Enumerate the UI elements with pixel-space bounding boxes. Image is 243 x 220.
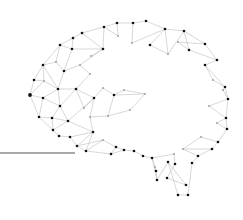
network-node <box>102 87 104 89</box>
network-node <box>164 28 167 31</box>
network-edge <box>80 65 90 74</box>
network-edge <box>213 80 225 87</box>
network-node <box>52 129 55 132</box>
network-edge <box>217 118 226 123</box>
network-edge <box>108 110 130 116</box>
network-edge <box>56 62 64 71</box>
network-node <box>204 64 207 67</box>
network-edge <box>76 89 84 108</box>
network-edge <box>192 156 198 163</box>
network-node <box>63 70 66 73</box>
network-node <box>42 64 45 67</box>
network-edge <box>59 136 70 137</box>
network-node <box>155 170 158 173</box>
network-node <box>177 41 179 43</box>
network-node <box>107 115 109 117</box>
network-edge <box>183 137 201 149</box>
network-edge <box>124 150 134 151</box>
network-node <box>142 155 145 158</box>
network-edge <box>124 90 145 94</box>
network-edge <box>60 45 72 49</box>
network-node <box>81 32 84 35</box>
network-edge <box>43 89 58 98</box>
network-edge <box>34 80 44 81</box>
network-node <box>75 88 78 91</box>
network-edge <box>218 129 227 142</box>
network-node <box>83 107 85 109</box>
network-edge <box>152 158 157 180</box>
network-node <box>167 53 169 55</box>
network-node <box>67 120 70 123</box>
network-edge <box>209 106 226 118</box>
network-node <box>185 184 188 187</box>
network-edge <box>205 65 225 87</box>
network-edge <box>103 88 114 95</box>
network-edge <box>58 89 60 106</box>
network-node <box>182 148 184 150</box>
network-edge <box>117 23 118 36</box>
network-edge <box>165 29 168 54</box>
network-edge <box>111 150 124 154</box>
network-edge <box>43 65 44 81</box>
network-node <box>166 177 169 180</box>
network-edge <box>165 29 184 31</box>
network-edge <box>73 33 82 38</box>
network-edge <box>226 99 228 118</box>
network-node <box>43 80 45 82</box>
network-node <box>92 131 95 134</box>
network-node <box>145 20 148 23</box>
network-node <box>113 94 116 97</box>
network-edge <box>183 149 198 156</box>
network-edge <box>150 45 168 54</box>
network-edge <box>143 156 152 158</box>
network-node <box>151 157 154 160</box>
network-node <box>59 105 62 108</box>
network-edge <box>226 118 227 129</box>
network-edge <box>174 154 175 164</box>
network-node <box>225 117 228 120</box>
network-nodes <box>28 20 229 197</box>
network-edge <box>104 23 117 27</box>
network-node <box>57 88 60 91</box>
network-node <box>156 179 159 182</box>
network-edge <box>104 27 118 36</box>
network-node <box>133 150 136 153</box>
network-node <box>149 44 152 47</box>
network-node <box>132 22 135 25</box>
network-edge <box>80 49 103 65</box>
network-edge <box>152 154 174 158</box>
network-edge <box>70 137 77 146</box>
network-edge <box>60 38 73 45</box>
network-edge <box>103 140 116 147</box>
network-node <box>226 128 229 131</box>
network-node <box>173 153 175 155</box>
network-edge <box>53 121 68 130</box>
network-node <box>110 153 113 156</box>
network-edge <box>52 118 53 130</box>
network-node <box>216 122 218 124</box>
network-edge <box>114 94 145 95</box>
network-edge <box>64 49 72 71</box>
network-node <box>102 48 105 51</box>
network-node <box>38 116 41 119</box>
network-edge <box>60 89 76 106</box>
network-edge <box>114 90 124 95</box>
network-edge <box>68 121 93 132</box>
network-node <box>79 64 81 66</box>
network-edge <box>39 117 53 130</box>
network-node <box>28 93 32 97</box>
network-edge <box>132 23 133 43</box>
network-node <box>59 44 62 47</box>
network-node <box>222 89 224 91</box>
network-node <box>211 148 214 151</box>
network-node <box>33 79 36 82</box>
network-node <box>55 61 57 63</box>
network-edge <box>223 90 228 99</box>
network-node <box>129 109 131 111</box>
network-node <box>69 136 72 139</box>
network-node <box>85 150 88 153</box>
network-node <box>123 89 125 91</box>
network-edges <box>30 21 228 195</box>
network-edge <box>43 65 58 89</box>
network-edge <box>52 106 60 118</box>
